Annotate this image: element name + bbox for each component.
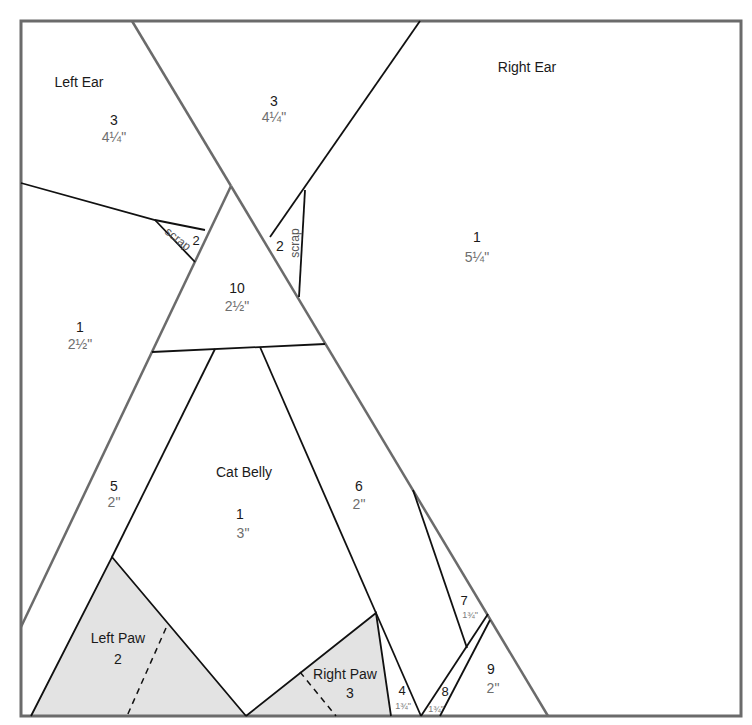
belly-piece-7-number: 7: [460, 594, 467, 607]
left-ear-piece-3-size: 4¼": [102, 130, 126, 144]
right-ear-piece-1-number: 1: [473, 230, 481, 244]
cat-belly-title: Cat Belly: [216, 465, 272, 479]
right-paw-title: Right Paw: [313, 667, 377, 681]
left-ear-title: Left Ear: [54, 75, 103, 89]
left-ear-piece-3-number: 3: [110, 113, 118, 127]
seam-right-ear: [270, 21, 420, 237]
left-ear-piece-1-size: 2½": [68, 337, 92, 351]
belly-piece-8-number: 8: [441, 685, 448, 698]
triangle-piece-10-number: 10: [229, 281, 245, 295]
left-ear-piece-1-number: 1: [76, 320, 84, 334]
belly-piece-6-size: 2": [353, 497, 366, 511]
pattern-diagram: [0, 0, 752, 725]
seam-triangle-base: [152, 344, 325, 352]
right-ear-scrap-label: scrap: [289, 228, 301, 257]
right-paw-piece: [246, 613, 391, 716]
right-ear-piece-1-size: 5¼": [465, 250, 489, 264]
belly-piece-1-size: 3": [237, 526, 250, 540]
right-paw-number: 3: [346, 686, 354, 700]
section-line-left-ear-diagonal: [132, 21, 231, 186]
top-piece-3-number: 3: [270, 94, 278, 108]
section-line-right-diagonal: [231, 186, 548, 716]
left-paw-title: Left Paw: [91, 631, 145, 645]
triangle-piece-10-size: 2½": [225, 299, 249, 313]
right-ear-title: Right Ear: [498, 60, 556, 74]
belly-piece-5-size: 2": [108, 495, 121, 509]
belly-piece-6-number: 6: [355, 479, 363, 493]
left-ear-piece-2-number: 2: [192, 234, 199, 247]
seam-left-ear: [21, 183, 205, 230]
left-paw-number: 2: [114, 652, 122, 666]
belly-piece-5-number: 5: [110, 479, 118, 493]
right-ear-piece-2-number: 2: [276, 239, 284, 253]
belly-piece-9-number: 9: [487, 662, 495, 676]
belly-piece-9-size: 2": [487, 681, 500, 695]
belly-piece-7-size: 1¾": [462, 611, 478, 620]
belly-piece-1-number: 1: [236, 507, 244, 521]
section-line-triangle-left: [21, 186, 231, 627]
belly-piece-4-number: 4: [398, 684, 405, 697]
belly-piece-4-size: 1¾": [395, 702, 411, 711]
seam-piece-8-right: [440, 620, 490, 716]
belly-piece-8-size: 1¾": [428, 705, 444, 714]
top-piece-3-size: 4¼": [262, 110, 286, 124]
seam-piece-8-left: [421, 614, 488, 716]
seam-piece-5: [112, 349, 215, 557]
